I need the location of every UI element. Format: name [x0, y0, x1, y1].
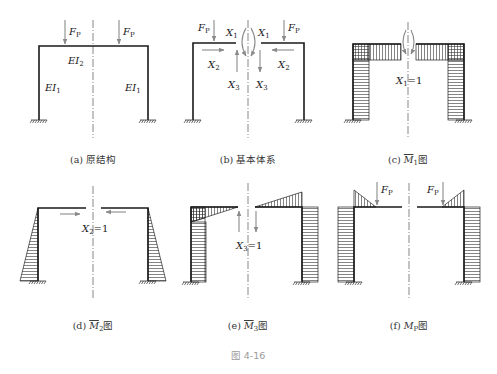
x2-label: X2 — [207, 59, 220, 72]
x3-label: X3 — [227, 79, 240, 92]
figure-4-16: FP FP EI2 EI1 EI1 (a) 原结构 FP FP X1 X1 X2… — [0, 0, 497, 374]
moment-x1-left-icon — [242, 28, 246, 56]
right-half-frame — [261, 43, 304, 120]
moment-x1-right-icon — [251, 28, 255, 56]
panel-e-m3-diagram: X3=1 (e) M3图 — [182, 183, 318, 333]
x2-label: X2 — [277, 59, 290, 72]
moment-area — [338, 207, 354, 282]
fixed-support-icon — [455, 120, 472, 123]
load-label: FP — [197, 22, 210, 35]
left-half-frame — [38, 208, 86, 281]
moment-area — [148, 208, 166, 281]
moment-area — [442, 190, 464, 207]
moment-area — [416, 44, 448, 60]
fixed-support-icon — [139, 281, 156, 284]
panel-b-basic-system: FP FP X1 X1 X2 X2 X3 X3 (b) 基本体系 — [184, 20, 312, 165]
panel-caption: (e) M3图 — [228, 320, 268, 333]
panel-d-m2-diagram: X2=1 (d) M2图 — [20, 186, 166, 333]
right-half-frame — [101, 208, 148, 281]
left-half-frame — [354, 207, 402, 282]
x1-label: X1 — [257, 27, 270, 40]
moment-area — [354, 190, 376, 207]
right-column-stiffness-label: EI1 — [124, 82, 141, 95]
moment-area — [448, 44, 464, 60]
x3-label: X3 — [255, 79, 268, 92]
fixed-support-icon — [344, 120, 361, 123]
panel-c-m1-diagram: X1=1 (c) M1图 — [344, 22, 472, 167]
panel-a-original-structure: FP FP EI2 EI1 EI1 (a) 原结构 — [30, 20, 156, 165]
moment-area — [255, 192, 302, 207]
fixed-support-icon — [139, 120, 156, 123]
left-column-stiffness-label: EI1 — [44, 82, 61, 95]
load-label: FP — [380, 184, 393, 197]
load-label: FP — [287, 22, 300, 35]
moment-area — [191, 207, 205, 222]
panel-f-mp-diagram: FP FP (f) MP图 — [338, 182, 480, 333]
load-label: FP — [68, 26, 81, 39]
unit-load-label: X1=1 — [395, 75, 422, 88]
moment-area — [353, 44, 369, 60]
fixed-support-icon — [29, 281, 46, 284]
load-label: FP — [426, 184, 439, 197]
fixed-support-icon — [295, 120, 312, 123]
panel-caption: (f) MP图 — [390, 320, 428, 333]
moment-area — [448, 60, 464, 120]
moment-area — [302, 207, 318, 282]
unit-moment-left-icon — [403, 30, 406, 54]
panel-caption: (d) M2图 — [73, 320, 114, 333]
figure-number: 图 4-16 — [231, 350, 266, 361]
fixed-support-icon — [345, 282, 362, 285]
moment-area — [464, 207, 480, 282]
panel-caption: (b) 基本体系 — [220, 154, 277, 165]
unit-load-label: X3=1 — [235, 240, 262, 253]
fixed-support-icon — [293, 282, 310, 285]
right-half-frame — [417, 207, 464, 282]
panel-caption: (c) M1图 — [388, 154, 428, 167]
moment-area — [353, 60, 369, 120]
moment-area — [20, 208, 38, 281]
load-label: FP — [122, 26, 135, 39]
x1-label: X1 — [225, 27, 238, 40]
fixed-support-icon — [455, 282, 472, 285]
moment-area — [369, 44, 401, 60]
beam-stiffness-label: EI2 — [67, 55, 84, 68]
unit-load-label: X2=1 — [81, 223, 108, 236]
fixed-support-icon — [182, 282, 199, 285]
fixed-support-icon — [184, 120, 201, 123]
fixed-support-icon — [30, 120, 47, 123]
moment-area — [191, 222, 206, 282]
panel-caption: (a) 原结构 — [70, 154, 116, 165]
unit-moment-right-icon — [411, 30, 414, 54]
